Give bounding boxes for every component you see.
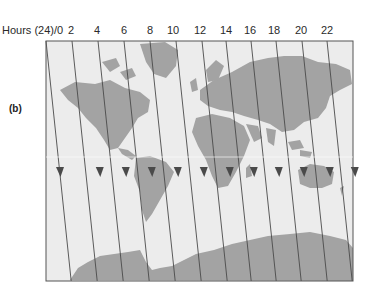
world-map-diagram — [0, 0, 368, 293]
